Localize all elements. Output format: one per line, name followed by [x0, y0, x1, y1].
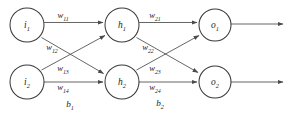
node-label-o2: o2 [211, 77, 219, 89]
node-label-o1-sub: 1 [216, 25, 219, 32]
node-label-h2-sub: 2 [123, 82, 126, 89]
diagram-canvas [0, 0, 293, 118]
weight-label-w22: w22 [142, 42, 154, 54]
weight-label-w23-sub: 23 [155, 69, 161, 75]
node-label-h2: h2 [118, 77, 126, 89]
bias-label-b2: b2 [156, 98, 164, 110]
weight-label-w12: w12 [46, 42, 58, 54]
node-label-o2-sub: 2 [216, 82, 219, 89]
weight-label-w21: w21 [149, 10, 161, 22]
node-label-i1: i1 [24, 20, 30, 32]
node-label-i1-sub: 1 [27, 25, 30, 32]
weight-label-w21-sub: 21 [155, 16, 161, 22]
neural-network-diagram: i1 i2 h1 h2 o1 o2 w11 w12 w13 w14 w21 w2… [0, 0, 293, 118]
weight-label-w12-sub: 12 [52, 48, 58, 54]
weight-label-w22-sub: 22 [148, 48, 154, 54]
node-label-i2-sub: 2 [27, 82, 30, 89]
node-label-o1: o1 [211, 20, 219, 32]
weight-label-w13-sub: 13 [63, 69, 69, 75]
bias-label-b1: b1 [66, 99, 74, 111]
weight-label-w24-sub: 24 [155, 88, 161, 94]
weight-label-w23: w23 [149, 63, 161, 75]
node-label-h1: h1 [118, 20, 126, 32]
weight-label-w24: w24 [149, 82, 161, 94]
node-label-h1-sub: 1 [123, 25, 126, 32]
weight-label-w14: w14 [57, 82, 69, 94]
weight-label-w11: w11 [57, 10, 68, 22]
bias-label-b2-sub: 2 [161, 103, 164, 110]
weight-label-w11-sub: 11 [63, 16, 68, 22]
weight-label-w13: w13 [57, 63, 69, 75]
weight-label-w14-sub: 14 [63, 88, 69, 94]
bias-label-b1-sub: 1 [71, 104, 74, 111]
node-label-i2: i2 [24, 77, 30, 89]
